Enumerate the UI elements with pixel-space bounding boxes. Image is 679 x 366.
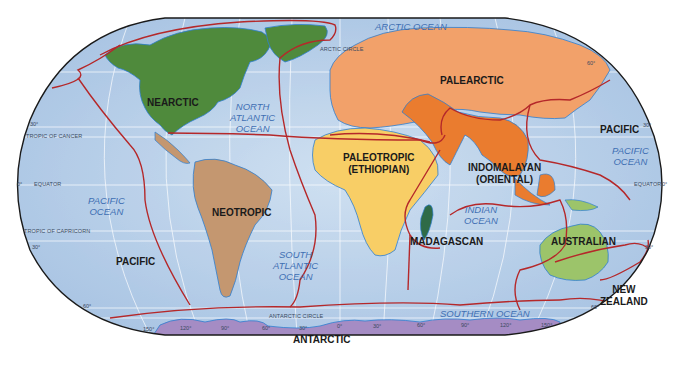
- tick-left-30s: 30°: [32, 244, 40, 250]
- label-south-atlantic-ocean: SOUTH ATLANTIC OCEAN: [273, 250, 318, 283]
- label-new-zealand-line2: ZEALAND: [600, 296, 648, 308]
- realm-antarctic: [150, 318, 560, 345]
- label-pacific-east-line2: OCEAN: [612, 157, 649, 168]
- label-indian-ocean: INDIAN OCEAN: [464, 205, 498, 227]
- label-arctic-circle: ARCTIC CIRCLE: [320, 46, 363, 52]
- world-map: [0, 0, 679, 366]
- label-indomalayan: INDOMALAYAN (ORIENTAL): [468, 162, 541, 185]
- tick-right-0: 0°: [662, 181, 667, 187]
- tick-left-0: 0°: [17, 181, 22, 187]
- tick-bottom-60w: 60°: [262, 325, 270, 331]
- label-paleotropic-line1: PALEOTROPIC: [343, 152, 414, 164]
- label-new-zealand: NEW ZEALAND: [600, 284, 648, 307]
- tick-bottom-90e: 90°: [461, 322, 469, 328]
- label-equator-left: EQUATOR: [34, 181, 61, 187]
- label-south-atlantic-line3: OCEAN: [273, 272, 318, 283]
- label-paleotropic: PALEOTROPIC (ETHIOPIAN): [343, 152, 414, 175]
- label-new-zealand-line1: NEW: [600, 284, 648, 296]
- label-north-atlantic-line3: OCEAN: [230, 124, 275, 135]
- label-north-atlantic-ocean: NORTH ATLANTIC OCEAN: [230, 102, 275, 135]
- label-indomalayan-line2: (ORIENTAL): [468, 174, 541, 186]
- label-indomalayan-line1: INDOMALAYAN: [468, 162, 541, 174]
- tick-bottom-90w: 90°: [221, 325, 229, 331]
- label-pacific-west: PACIFIC: [116, 256, 155, 268]
- tick-left-30n: 30°: [30, 121, 38, 127]
- tick-right-30n: 30°: [643, 122, 651, 128]
- tick-bottom-0: 0°: [337, 323, 342, 329]
- tick-bottom-60e: 60°: [417, 322, 425, 328]
- tick-bottom-30w: 30°: [299, 325, 307, 331]
- label-pacific-ocean-west: PACIFIC OCEAN: [88, 196, 125, 218]
- label-palearctic: PALEARCTIC: [440, 75, 504, 87]
- tick-bottom-30e: 30°: [373, 323, 381, 329]
- tick-bottom-120w: 120°: [180, 325, 191, 331]
- label-equator-right: EQUATOR: [634, 181, 661, 187]
- label-tropic-of-capricorn: TROPIC OF CAPRICORN: [24, 228, 90, 234]
- tick-right-60n: 60°: [587, 60, 595, 66]
- label-neotropic: NEOTROPIC: [212, 207, 271, 219]
- label-indian-line2: OCEAN: [464, 216, 498, 227]
- label-pacific-ocean-east: PACIFIC OCEAN: [612, 146, 649, 168]
- label-tropic-of-cancer: TROPIC OF CANCER: [26, 133, 82, 139]
- label-australian: AUSTRALIAN: [551, 236, 616, 248]
- label-nearctic: NEARCTIC: [147, 97, 199, 109]
- tick-bottom-150e: 150°: [541, 322, 552, 328]
- label-antarctic: ANTARCTIC: [293, 334, 351, 346]
- tick-right-60s: 60°: [591, 304, 599, 310]
- label-madagascan: MADAGASCAN: [410, 236, 483, 248]
- label-paleotropic-line2: (ETHIOPIAN): [343, 164, 414, 176]
- tick-left-60s: 60°: [83, 303, 91, 309]
- label-pacific-east: PACIFIC: [600, 124, 639, 136]
- tick-right-30s: 30°: [645, 244, 653, 250]
- label-pacific-west-line2: OCEAN: [88, 207, 125, 218]
- label-southern-ocean: SOUTHERN OCEAN: [440, 309, 530, 320]
- label-antarctic-circle: ANTARCTIC CIRCLE: [269, 313, 323, 319]
- label-arctic-ocean: ARCTIC OCEAN: [375, 22, 447, 33]
- tick-bottom-150w: 150°: [143, 326, 154, 332]
- tick-bottom-120e: 120°: [500, 322, 511, 328]
